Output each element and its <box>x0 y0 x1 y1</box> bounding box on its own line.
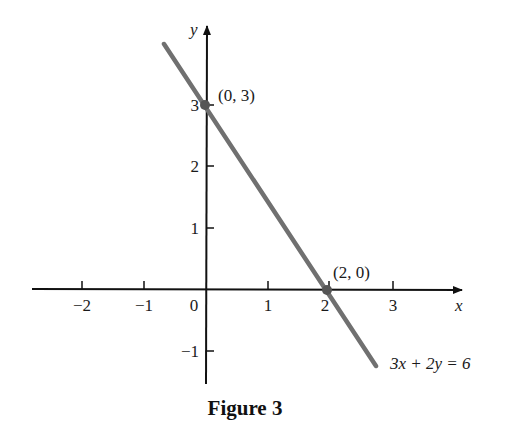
y-axis <box>206 26 207 384</box>
x-axis-label: x <box>454 296 463 315</box>
line-3x-2y-6 <box>164 44 376 366</box>
equation-label: 3x + 2y = 6 <box>389 354 471 373</box>
point-label-2-0: (2, 0) <box>333 263 370 282</box>
point-label-0-3: (0, 3) <box>218 86 255 105</box>
figure-caption: Figure 3 <box>208 396 283 420</box>
y-tick-label: 2 <box>191 157 200 176</box>
point-2-0 <box>322 285 332 295</box>
x-tick-label: 2 <box>321 296 330 315</box>
point-0-3 <box>200 100 210 110</box>
x-tick-label: 3 <box>389 296 398 315</box>
x-tick-label: 1 <box>264 296 273 315</box>
y-tick-label: −1 <box>181 342 199 361</box>
y-axis-label: y <box>188 20 198 39</box>
x-tick-label: −2 <box>73 296 91 315</box>
x-tick-label: −1 <box>135 296 153 315</box>
origin-label: 0 <box>190 296 199 315</box>
y-tick-label: 1 <box>191 219 200 238</box>
figure-3-graph: −2 −1 0 1 2 3 3 2 1 −1 x y (0, 3) (2, 0)… <box>0 0 524 431</box>
x-ticks <box>82 281 393 289</box>
x-axis <box>32 289 462 290</box>
